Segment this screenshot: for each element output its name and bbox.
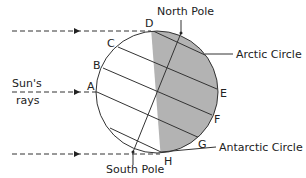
point-label-g: G xyxy=(198,138,207,151)
suns-rays-label-line1: Sun's xyxy=(12,77,42,90)
antarctic-circle-line xyxy=(110,128,161,152)
arrowhead-icon xyxy=(74,28,80,34)
arrowhead-icon xyxy=(74,151,80,157)
north-pole-label: North Pole xyxy=(157,5,214,18)
suns-rays-label-line2: rays xyxy=(16,94,40,107)
point-label-c: C xyxy=(107,37,115,50)
point-label-b: B xyxy=(93,59,101,72)
point-label-f: F xyxy=(214,113,220,126)
earth-sunlight-diagram: North Pole South Pole Arctic Circle Anta… xyxy=(0,0,306,178)
point-label-a: A xyxy=(87,80,95,93)
point-label-h: H xyxy=(164,155,172,168)
sun-rays xyxy=(12,31,160,154)
point-label-e: E xyxy=(220,87,227,100)
point-label-d: D xyxy=(145,17,153,30)
arrowhead-icon xyxy=(74,89,80,95)
antarctic-circle-label: Antarctic Circle xyxy=(219,141,303,154)
arctic-circle-label: Arctic Circle xyxy=(236,48,302,61)
south-pole-label: South Pole xyxy=(106,163,164,176)
